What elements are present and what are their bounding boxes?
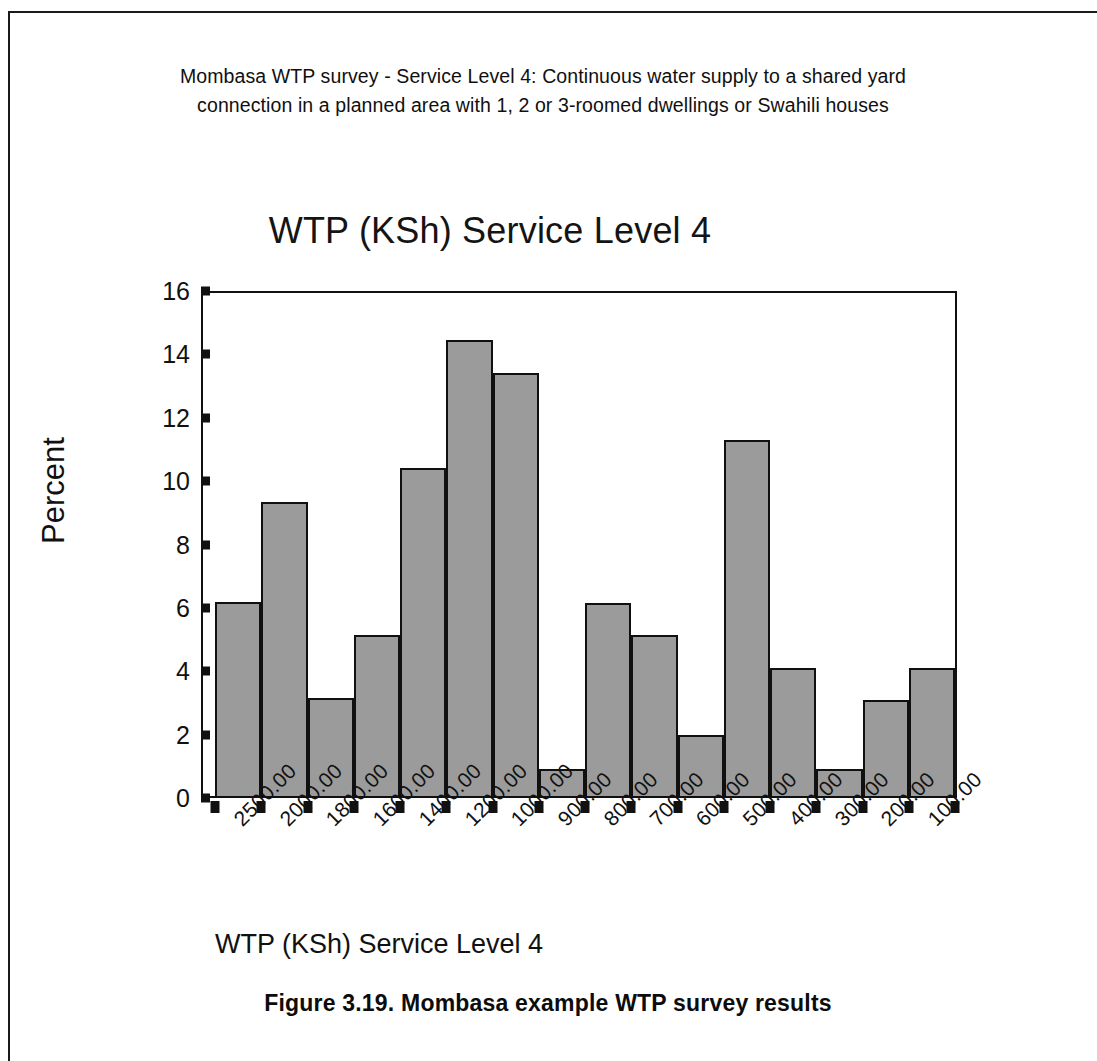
bar — [724, 440, 770, 798]
y-axis-tick-mark — [201, 350, 210, 359]
y-axis-tick-label: 16 — [162, 277, 190, 306]
bar — [261, 502, 307, 798]
y-axis-tick-mark — [201, 794, 210, 803]
figure-caption: Figure 3.19. Mombasa example WTP survey … — [148, 990, 948, 1017]
bar — [446, 340, 492, 798]
y-axis-tick-mark — [201, 287, 210, 296]
document-page: Mombasa WTP survey - Service Level 4: Co… — [0, 0, 1097, 1061]
y-axis-tick-label: 6 — [176, 593, 190, 622]
header-caption: Mombasa WTP survey - Service Level 4: Co… — [148, 62, 938, 120]
y-axis-tick-label: 8 — [176, 530, 190, 559]
y-axis-tick-mark — [201, 730, 210, 739]
x-axis-tick-mark — [211, 801, 220, 813]
y-axis-tick-mark — [201, 540, 210, 549]
y-axis-tick-label: 12 — [162, 403, 190, 432]
y-axis-tick-mark — [201, 667, 210, 676]
page-border-top — [8, 11, 1097, 13]
bar — [585, 603, 631, 798]
bar-chart: WTP (KSh) Service Level 4 1614121086420 … — [0, 196, 1097, 996]
bar — [400, 468, 446, 798]
y-axis-tick-mark — [201, 477, 210, 486]
y-axis-tick-label: 2 — [176, 720, 190, 749]
y-axis-tick-label: 4 — [176, 657, 190, 686]
bar — [493, 373, 539, 798]
y-axis-title: Percent — [36, 437, 72, 544]
y-axis-tick-label: 10 — [162, 467, 190, 496]
bar — [215, 602, 261, 798]
y-axis-tick-mark — [201, 413, 210, 422]
y-axis-tick-label: 14 — [162, 340, 190, 369]
y-axis-ticks: 1614121086420 — [140, 291, 196, 798]
y-axis-tick-mark — [201, 603, 210, 612]
x-axis-title: WTP (KSh) Service Level 4 — [215, 929, 543, 960]
chart-title: WTP (KSh) Service Level 4 — [170, 210, 810, 252]
y-axis-tick-label: 0 — [176, 784, 190, 813]
bars-layer — [215, 291, 955, 798]
x-axis-tick-labels: 2500.002000.001800.001600.001400.001200.… — [215, 814, 955, 924]
